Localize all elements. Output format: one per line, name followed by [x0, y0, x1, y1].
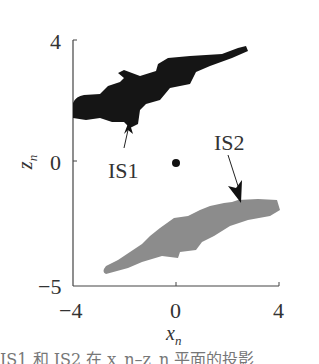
y-tick-label-0: 0: [50, 152, 61, 174]
is2-label: IS2: [214, 132, 245, 154]
y-tick-label-neg5: −5: [38, 276, 61, 298]
plot-area: [0, 0, 319, 364]
x-tick-label-0: 0: [170, 300, 181, 322]
x-axis-label: xn: [166, 323, 181, 347]
is1-label: IS1: [108, 160, 139, 182]
y-axis-label: zn: [15, 155, 39, 169]
is2-arrow-line: [228, 155, 238, 186]
figure-caption: IS1 和 IS2 在 x_n–z_n 平面的投影: [0, 350, 319, 364]
is1-region: [73, 46, 248, 128]
origin-point: [172, 159, 180, 167]
x-tick-label-neg4: −4: [59, 300, 82, 322]
x-tick-label-4: 4: [273, 300, 284, 322]
y-tick-label-4: 4: [50, 31, 61, 53]
is2-arrow-head: [228, 180, 242, 203]
is2-region: [104, 199, 281, 274]
